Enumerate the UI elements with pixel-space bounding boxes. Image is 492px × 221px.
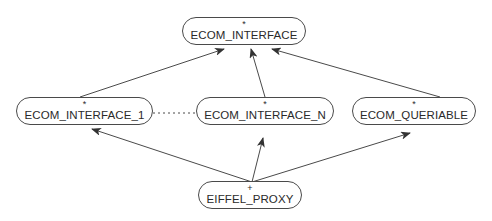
node-label: ECOM_INTERFACE_1	[17, 108, 152, 122]
node-ecom-interface-n[interactable]: * ECOM_INTERFACE_N	[196, 97, 334, 125]
node-eiffel-proxy[interactable]: + EIFFEL_PROXY	[198, 181, 302, 209]
deferred-mark: *	[197, 100, 333, 108]
edge-proxy-to-interface-n	[252, 138, 263, 182]
node-label: ECOM_INTERFACE_N	[197, 108, 333, 122]
deferred-mark: *	[17, 100, 152, 108]
node-label: ECOM_INTERFACE	[183, 28, 305, 42]
node-ecom-interface[interactable]: * ECOM_INTERFACE	[182, 17, 306, 45]
edge-queriable-to-interface	[272, 49, 440, 97]
edge-interface-1-to-interface	[80, 49, 224, 97]
deferred-mark: *	[353, 100, 475, 108]
edge-proxy-to-queriable	[252, 133, 410, 182]
node-ecom-queriable[interactable]: * ECOM_QUERIABLE	[352, 97, 476, 125]
node-ecom-interface-1[interactable]: * ECOM_INTERFACE_1	[16, 97, 153, 125]
edge-proxy-to-interface-1	[92, 129, 252, 182]
edge-interface-n-to-interface	[251, 49, 265, 97]
node-label: ECOM_QUERIABLE	[353, 108, 475, 122]
node-label: EIFFEL_PROXY	[199, 192, 301, 206]
deferred-mark: *	[183, 20, 305, 28]
effective-mark: +	[199, 184, 301, 192]
